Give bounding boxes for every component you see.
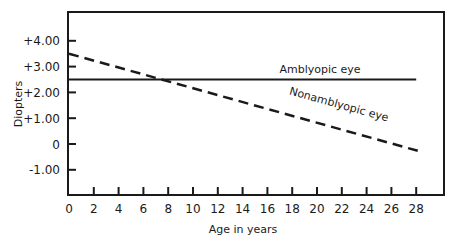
y-tick-label: +4.00	[23, 34, 60, 48]
x-tick-label: 10	[185, 202, 200, 216]
x-tick-label: 8	[164, 202, 172, 216]
x-tick-label: 18	[285, 202, 300, 216]
y-axis-title: Diopters	[12, 80, 25, 127]
y-tick-label: -1.00	[29, 163, 60, 177]
y-tick-label: +1.00	[23, 112, 60, 126]
y-tick-label: +2.00	[23, 86, 60, 100]
x-tick-label: 28	[409, 202, 424, 216]
x-tick-label: 2	[90, 202, 98, 216]
x-tick-label: 20	[309, 202, 324, 216]
x-tick-label: 14	[235, 202, 250, 216]
x-tick-label: 22	[334, 202, 349, 216]
x-tick-label: 12	[210, 202, 225, 216]
x-axis-title: Age in years	[209, 223, 278, 236]
x-tick-label: 26	[384, 202, 399, 216]
plot-frame	[68, 12, 444, 195]
x-tick-label: 0	[65, 202, 73, 216]
x-tick-label: 4	[115, 202, 123, 216]
x-tick-label: 24	[359, 202, 374, 216]
amblyopic-eye-label: Amblyopic eye	[279, 63, 360, 76]
nonamblyopic-eye-line	[69, 54, 421, 152]
y-tick-label: 0	[52, 138, 60, 152]
series-lines	[69, 54, 421, 152]
y-tick-label: +3.00	[23, 60, 60, 74]
chart: +4.00+3.00+2.00+1.000-1.00 0246810121416…	[0, 0, 466, 244]
x-tick-label: 6	[140, 202, 148, 216]
x-tick-label: 16	[260, 202, 275, 216]
x-axis-ticks: 0246810121416182022242628	[65, 187, 424, 216]
